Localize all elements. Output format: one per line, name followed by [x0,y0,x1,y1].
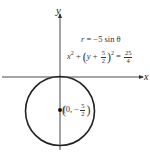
cart-plus: + [76,51,81,61]
cart-y-exp: 2 [111,50,114,56]
center-point-label: ((0, −52) [62,103,90,117]
polar-rhs: −5 sin θ [93,34,120,44]
cartesian-equation: x2 + (y + 52)2 = 254 [67,50,133,64]
cart-y: y [87,51,91,61]
cart-y-op: + [93,51,98,61]
cart-fraction: 52 [101,50,106,64]
polar-equation: r = −5 sin θ [81,35,121,44]
cart-equals: = [116,51,121,61]
cart-x-exp: 2 [71,50,74,56]
center-fraction: 52 [80,103,85,117]
y-axis-label: y [56,5,61,16]
polar-equals: = [86,34,91,44]
x-axis-label: x [144,72,148,82]
center-label-open: (0, − [63,104,79,114]
cart-rhs-fraction: 254 [124,50,133,64]
polar-lhs: r [81,34,84,44]
polar-graph [0,0,150,152]
